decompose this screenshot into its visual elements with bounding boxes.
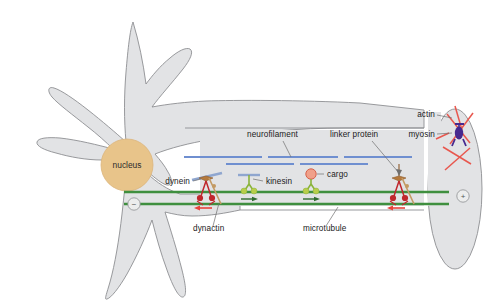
kinesin-foot	[241, 188, 247, 194]
nucleus: nucleus	[101, 139, 153, 191]
minus-end-marker: −	[128, 198, 140, 210]
dynein-label: dynein	[165, 177, 190, 186]
dynactin-node	[405, 184, 409, 188]
neurofilament-label: neurofilament	[247, 130, 299, 139]
cargo-vesicle	[306, 169, 316, 179]
plus-end-symbol: +	[461, 192, 466, 201]
dynactin-node	[212, 184, 216, 188]
nucleus-label: nucleus	[113, 160, 142, 170]
microtubule-label: microtubule	[303, 224, 347, 233]
axonal-transport-figure: nucleus − +	[0, 0, 502, 308]
linker-protein-label: linker protein	[330, 130, 379, 139]
dynactin-label: dynactin	[193, 224, 225, 233]
dynein-foot	[197, 195, 203, 201]
dynein-foot	[209, 195, 215, 201]
cargo-label: cargo	[327, 170, 348, 179]
kinesin-foot	[313, 188, 319, 194]
myosin-head	[455, 127, 463, 140]
kinesin-foot	[251, 188, 257, 194]
minus-end-symbol: −	[132, 200, 137, 209]
axon-shaft	[185, 128, 424, 210]
plus-end-marker: +	[457, 190, 469, 202]
kinesin-label: kinesin	[266, 177, 293, 186]
actin-label: actin	[417, 110, 435, 119]
dynein-foot	[402, 195, 408, 201]
kinesin-foot	[303, 188, 309, 194]
dynein-foot	[390, 195, 396, 201]
myosin-label: myosin	[408, 130, 435, 139]
diagram-canvas: nucleus − +	[0, 0, 502, 308]
